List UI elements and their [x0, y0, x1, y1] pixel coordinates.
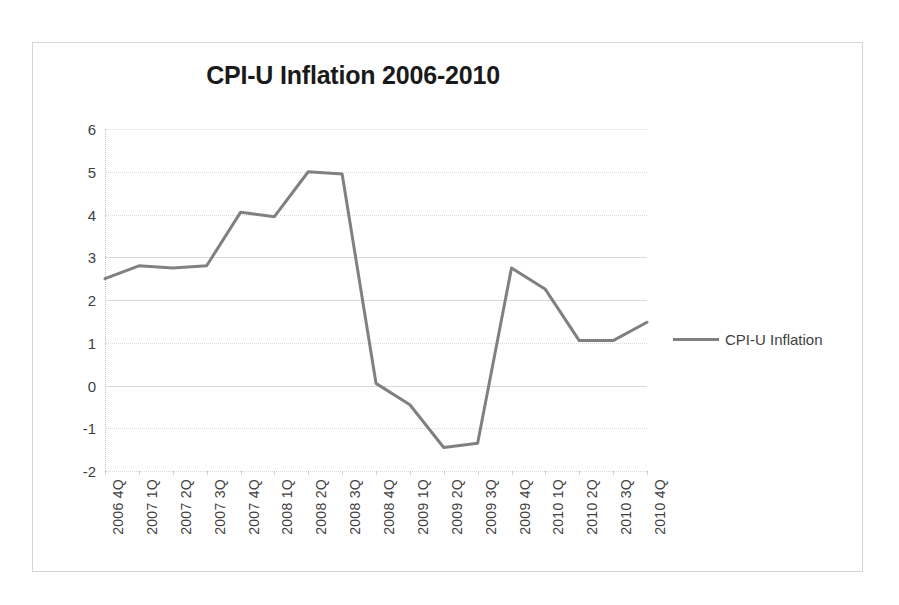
series-path-cpi-u-inflation: [105, 172, 647, 448]
x-axis-tick-label: 2010 4Q: [652, 479, 668, 535]
x-axis-tick-label: 2009 4Q: [517, 479, 533, 535]
y-axis-tick-label: -2: [83, 463, 96, 480]
x-axis-tick-mark: [139, 471, 140, 475]
x-axis-tick-label: 2008 3Q: [347, 479, 363, 535]
x-axis-tick-mark: [274, 471, 275, 475]
x-axis-tick-mark: [241, 471, 242, 475]
x-axis-tick-mark: [410, 471, 411, 475]
x-axis-tick-mark: [579, 471, 580, 475]
x-axis-tick-mark: [173, 471, 174, 475]
x-axis-tick-mark: [308, 471, 309, 475]
x-axis-tick-mark: [207, 471, 208, 475]
x-axis-tick-mark: [647, 471, 648, 475]
scan-artifact-upper: [799, 431, 802, 441]
x-axis-tick-label: 2009 1Q: [415, 479, 431, 535]
x-axis-tick-mark: [545, 471, 546, 475]
x-axis-tick-mark: [105, 471, 106, 475]
x-axis-tick-label: 2009 2Q: [449, 479, 465, 535]
x-axis-tick-label: 2008 2Q: [313, 479, 329, 535]
x-axis-tick-label: 2010 3Q: [618, 479, 634, 535]
x-axis-tick-mark: [444, 471, 445, 475]
x-axis-tick-label: 2007 4Q: [246, 479, 262, 535]
x-axis-tick-mark: [512, 471, 513, 475]
x-axis-tick-mark: [478, 471, 479, 475]
x-axis-tick-mark: [342, 471, 343, 475]
x-axis-tick-label: 2009 3Q: [483, 479, 499, 535]
x-axis-tick-label: 2010 2Q: [584, 479, 600, 535]
x-axis-tick-label: 2010 1Q: [550, 479, 566, 535]
legend-color-swatch-icon: [673, 338, 719, 341]
y-axis-tick-label: 1: [88, 334, 96, 351]
legend-label-cpi-u-inflation: CPI-U Inflation: [725, 331, 823, 348]
x-axis-tick-label: 2008 1Q: [279, 479, 295, 535]
x-axis-tick-mark: [376, 471, 377, 475]
y-axis-tick-label: 5: [88, 163, 96, 180]
x-axis-tick-label: 2007 3Q: [212, 479, 228, 535]
x-axis-tick-label: 2008 4Q: [381, 479, 397, 535]
y-axis-tick-label: -1: [83, 420, 96, 437]
x-axis-tick-label: 2006 4Q: [110, 479, 126, 535]
scan-artifact-lower: [799, 461, 802, 471]
x-axis-tick-label: 2007 2Q: [178, 479, 194, 535]
y-axis-tick-label: 6: [88, 121, 96, 138]
x-axis-tick-mark: [613, 471, 614, 475]
series-line-cpi-u-inflation: [105, 129, 647, 471]
y-axis-tick-label: 0: [88, 377, 96, 394]
plot-area: 6543210-1-2 2006 4Q2007 1Q2007 2Q2007 3Q…: [105, 129, 647, 471]
x-axis-tick-label: 2007 1Q: [144, 479, 160, 535]
chart-legend: CPI-U Inflation: [673, 331, 823, 348]
y-axis-tick-label: 4: [88, 206, 96, 223]
chart-title: CPI-U Inflation 2006-2010: [33, 61, 673, 90]
y-axis-tick-label: 3: [88, 249, 96, 266]
y-axis-tick-label: 2: [88, 292, 96, 309]
chart-container: CPI-U Inflation 2006-2010 6543210-1-2 20…: [32, 42, 863, 572]
